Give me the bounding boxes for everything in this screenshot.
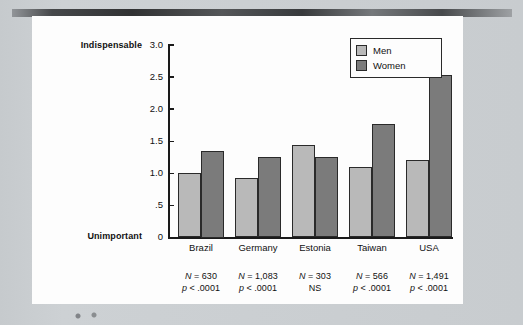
legend-swatch-women <box>356 60 367 71</box>
y-axis-tick-label: 1.0 <box>135 167 163 178</box>
bar-estonia-men <box>292 145 315 237</box>
bar-brazil-men <box>178 173 201 237</box>
y-axis-tick-label: 2.5 <box>135 71 163 82</box>
stats-usa: N = 1,491p < .0001 <box>391 271 467 294</box>
y-axis-tick-label: 1.5 <box>135 135 163 146</box>
legend-item-women: Women <box>356 58 436 73</box>
y-axis-low-label: Unimportant <box>38 231 142 241</box>
bar-taiwan-women <box>372 124 395 238</box>
scan-artifact-bottom-marks <box>72 311 112 321</box>
bar-brazil-women <box>201 151 224 238</box>
bar-germany-men <box>235 178 258 238</box>
bar-usa-men <box>406 160 429 238</box>
y-axis-tick-label: 2.0 <box>135 103 163 114</box>
x-axis-label-usa: USA <box>391 242 467 253</box>
bar-usa-women <box>429 75 452 237</box>
chart-legend: MenWomen <box>350 38 442 78</box>
y-axis-tick-label: .5 <box>135 199 163 210</box>
y-axis-tick <box>168 44 174 46</box>
y-axis-tick <box>168 141 174 143</box>
legend-swatch-men <box>356 45 367 56</box>
bar-germany-women <box>258 157 281 237</box>
bar-taiwan-men <box>349 167 372 238</box>
y-axis-tick-label: 3.0 <box>135 39 163 50</box>
y-axis-tick <box>168 205 174 207</box>
y-axis-tick <box>168 108 174 110</box>
sample-size: N = 1,491 <box>391 271 467 283</box>
p-value: p < .0001 <box>391 283 467 295</box>
y-axis-tick-label: 0 <box>135 231 163 242</box>
y-axis-high-label: Indispensable <box>38 40 142 50</box>
legend-item-men: Men <box>356 43 436 58</box>
bar-estonia-women <box>315 157 338 238</box>
legend-label-women: Women <box>373 60 406 71</box>
figure-panel: Indispensable Unimportant 0.51.01.52.02.… <box>32 16 463 304</box>
y-axis-tick <box>168 76 174 78</box>
y-axis-tick <box>168 237 174 239</box>
legend-label-men: Men <box>373 45 391 56</box>
y-axis-tick <box>168 173 174 175</box>
bar-chart-plot-area: Indispensable Unimportant 0.51.01.52.02.… <box>32 16 463 304</box>
